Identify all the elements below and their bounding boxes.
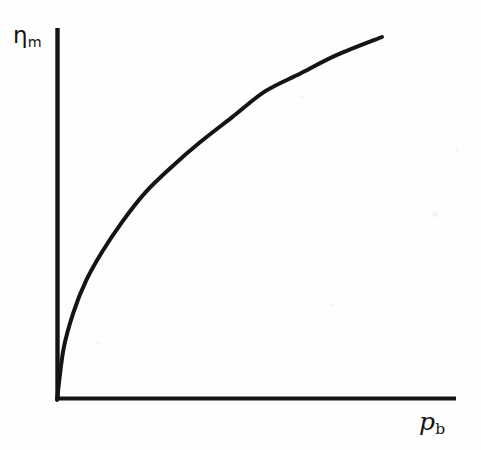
plot-area — [0, 0, 481, 450]
data-curve — [57, 37, 382, 400]
y-axis-symbol: η — [13, 22, 28, 48]
x-axis-symbol: p — [419, 407, 435, 436]
figure-canvas: ηm pb — [0, 0, 481, 450]
x-axis-subscript: b — [435, 420, 445, 438]
y-axis-label: ηm — [13, 24, 41, 47]
x-axis-label: pb — [419, 409, 445, 434]
y-axis-subscript: m — [28, 34, 42, 50]
